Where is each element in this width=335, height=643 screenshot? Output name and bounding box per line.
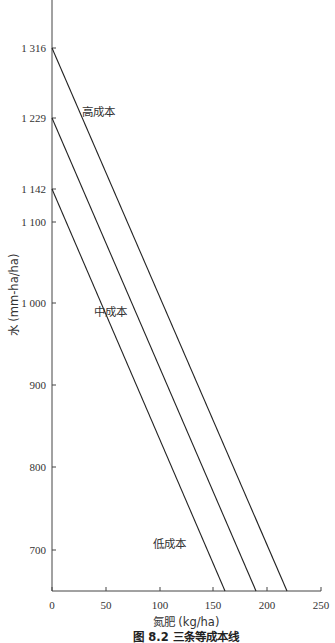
- figure-caption: 图 8.2 三条等成本线: [133, 630, 239, 643]
- annotation-mid-cost: 中成本: [94, 305, 128, 319]
- annotation-low-cost: 低成本: [153, 537, 187, 551]
- x-tick-label: 200: [259, 599, 276, 611]
- y-tick-label: 1 316: [21, 42, 46, 54]
- y-tick-labels: 1 316 1 229 1 142 1 100 1 000 900 800 70…: [21, 42, 46, 556]
- y-tick-label: 700: [30, 544, 47, 556]
- annotation-high-cost: 高成本: [82, 105, 116, 119]
- y-tick-label: 1 100: [21, 216, 46, 228]
- line-high-cost: [52, 48, 287, 591]
- x-axis-title: 氮肥 (kg/ha): [153, 615, 220, 629]
- x-tick-label: 100: [152, 599, 169, 611]
- x-tick-label: 0: [49, 599, 55, 611]
- x-tick-label: 250: [313, 599, 330, 611]
- x-tick-label: 150: [205, 599, 222, 611]
- iso-cost-chart: 0 50 100 150 200 250 1 316 1 229 1 142 1…: [0, 0, 335, 643]
- y-tick-label: 1 229: [21, 112, 46, 124]
- y-tick-label: 1 142: [21, 183, 46, 195]
- y-tick-label: 800: [30, 461, 47, 473]
- y-axis-title: 水 (mm-ha/ha): [7, 254, 21, 337]
- line-mid-cost: [52, 118, 256, 591]
- line-low-cost: [52, 189, 225, 591]
- y-tick-label: 1 000: [21, 297, 46, 309]
- x-tick-label: 50: [101, 599, 113, 611]
- y-tick-label: 900: [30, 379, 47, 391]
- x-tick-labels: 0 50 100 150 200 250: [49, 599, 330, 611]
- x-ticks: [52, 587, 321, 591]
